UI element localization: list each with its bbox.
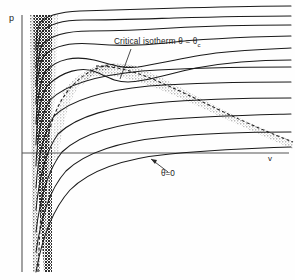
v-axis-label: v [268, 155, 272, 163]
van-der-waals-isotherm-figure: p v Critical isotherm θ = θc θ=0 [0, 0, 295, 280]
isotherm-curve [36, 132, 291, 252]
critical-isotherm-annotation-text: Critical isotherm θ = θ [114, 37, 198, 46]
p-axis-label: p [9, 14, 14, 23]
isotherm-curve [36, 25, 291, 86]
isotherm-curve [36, 147, 291, 272]
zero-isotherm-annotation: θ=0 [161, 170, 175, 178]
coexistence-dome-stipple-region [52, 64, 293, 160]
critical-isotherm-subscript: c [198, 42, 201, 48]
spinodal-dashed-curve-group [38, 64, 293, 272]
critical-isotherm-annotation: Critical isotherm θ = θc [114, 38, 201, 48]
